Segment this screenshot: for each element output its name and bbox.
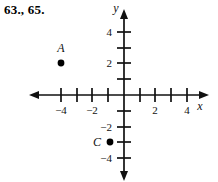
- x-tick-label-4: 4: [184, 104, 190, 116]
- x-tick-label--4: −4: [55, 104, 67, 116]
- x-axis-tick-labels: −4 −2 2 4: [55, 104, 190, 116]
- y-tick-label--2: −2: [100, 121, 112, 133]
- y-tick-label--4: −4: [100, 152, 112, 164]
- x-tick-label--2: −2: [86, 104, 98, 116]
- x-axis-right-arrowhead: [199, 91, 209, 99]
- y-axis-name-label: y: [112, 1, 119, 15]
- plotted-point-a-label: A: [56, 41, 65, 55]
- coordinate-grid-svg: −4 −2 2 4 4 2 −2 −4 x y A C: [0, 0, 218, 182]
- coordinate-plane-figure: 63., 65.: [0, 0, 218, 182]
- x-axis-name-label: x: [196, 99, 203, 113]
- x-tick-label-2: 2: [152, 104, 158, 116]
- plotted-point-c-dot[interactable]: [107, 139, 114, 146]
- y-tick-label-2: 2: [107, 57, 113, 69]
- axes-group: [29, 9, 209, 181]
- plotted-point-a-dot[interactable]: [58, 60, 65, 67]
- y-axis-up-arrowhead: [120, 9, 128, 19]
- y-axis-down-arrowhead: [120, 171, 128, 181]
- y-tick-label-4: 4: [107, 26, 113, 38]
- plotted-point-c-label: C: [93, 135, 102, 149]
- x-axis-left-arrowhead: [29, 91, 39, 99]
